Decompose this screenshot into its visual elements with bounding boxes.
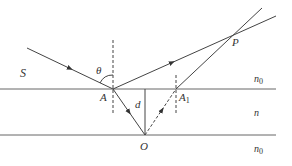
optics-diagram: S θ A d A1 P O n0 n n0 bbox=[0, 0, 292, 166]
label-A1: A1 bbox=[178, 91, 190, 105]
label-O: O bbox=[140, 140, 148, 152]
label-n0-top: n0 bbox=[254, 73, 263, 86]
label-P: P bbox=[231, 36, 239, 48]
label-d: d bbox=[135, 98, 141, 110]
label-n: n bbox=[254, 107, 259, 118]
emergent-ray bbox=[176, 8, 262, 89]
label-S: S bbox=[20, 66, 26, 80]
bottom-reflected-ray bbox=[145, 89, 176, 135]
label-theta: θ bbox=[96, 64, 102, 76]
label-n0-bottom: n0 bbox=[254, 143, 263, 156]
reflected-ray bbox=[113, 16, 276, 89]
angle-theta-arc bbox=[100, 75, 113, 83]
label-A: A bbox=[99, 91, 107, 103]
